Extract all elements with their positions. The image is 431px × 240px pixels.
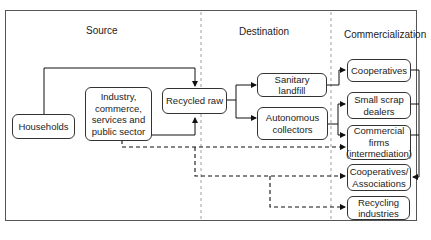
node-small-scrap-dealers: Small scrap dealers (347, 92, 411, 119)
node-sanitary-landfill: Sanitary landfill (257, 73, 327, 97)
column-title-commercialization: Commercialization (344, 29, 426, 40)
column-title-destination: Destination (239, 26, 289, 37)
node-autonomous-collectors: Autonomous collectors (257, 107, 328, 140)
node-cooperatives-associations: Cooperatives/ Associations (347, 164, 411, 191)
node-recycling-industries: Recycling industries (347, 196, 410, 220)
node-industry-commerce-services-public-sector: Industry, commerce, services and public … (85, 87, 152, 141)
node-commercial-firms: Commercial firms (intermediation) (347, 125, 411, 160)
node-households: Households (12, 114, 75, 139)
node-recycled-raw: Recycled raw (162, 88, 227, 114)
node-cooperatives: Cooperatives (347, 59, 411, 82)
column-title-source: Source (86, 25, 118, 36)
